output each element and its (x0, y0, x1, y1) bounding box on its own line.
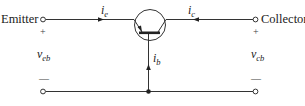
vcb-subscript: cb (256, 53, 264, 63)
ib-subscript: b (156, 57, 160, 67)
transistor-base-bar (139, 32, 160, 35)
collector-terminal[interactable] (253, 17, 258, 22)
transistor-envelope (135, 10, 166, 41)
ie-label: ie (101, 4, 108, 16)
left-plus-sign: + (40, 27, 46, 37)
ic-label: ic (188, 4, 195, 16)
emitter-label: Emitter (1, 13, 39, 26)
collector-ground-terminal[interactable] (253, 89, 258, 94)
veb-subscript: eb (42, 53, 50, 63)
vcb-label: vcb (251, 48, 264, 60)
junction-dot (146, 89, 151, 94)
emitter-terminal[interactable] (41, 17, 46, 22)
ie-subscript: e (104, 9, 108, 19)
right-plus-sign: + (253, 27, 259, 37)
emitter-ground-terminal[interactable] (41, 89, 46, 94)
collector-label: Collector (261, 13, 305, 26)
ib-arrow-icon (146, 64, 151, 70)
left-minus-sign: — (39, 74, 49, 84)
ic-subscript: c (191, 9, 195, 19)
ib-label: ib (153, 52, 161, 64)
veb-label: veb (37, 48, 50, 60)
right-minus-sign: — (251, 74, 261, 84)
